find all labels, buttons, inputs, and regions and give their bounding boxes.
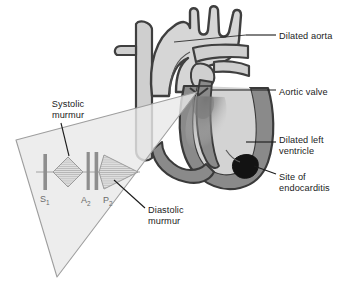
label-diastolic-murmur: Diastolic murmur [148, 205, 184, 227]
sound-label-s1: S1 [40, 194, 50, 206]
pulmonary-branch [214, 61, 249, 76]
s1-bar [43, 154, 47, 190]
label-dilated-left-ventricle: Dilated left ventricle [279, 135, 324, 157]
label-dilated-aorta: Dilated aorta [279, 31, 332, 42]
vessel-branch-stub [115, 46, 136, 55]
label-site-of-endocarditis: Site of endocarditis [279, 172, 330, 194]
p2-bar [95, 152, 99, 190]
sound-label-a2: A2 [81, 195, 91, 207]
sound-label-p2: P2 [103, 195, 113, 207]
a2-subscript: 2 [87, 200, 91, 207]
s1-subscript: 1 [46, 199, 50, 206]
label-systolic-murmur: Systolic murmur [38, 99, 98, 121]
a2-bar [87, 152, 90, 190]
p2-subscript: 2 [109, 200, 113, 207]
label-aortic-valve: Aortic valve [279, 87, 328, 98]
